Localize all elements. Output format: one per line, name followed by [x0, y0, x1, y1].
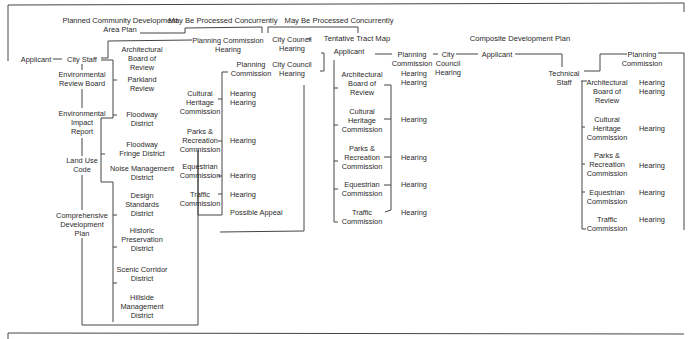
environmental-impact-report-node: Environmental Impact Report: [58, 109, 105, 137]
applicant-node: Applicant: [21, 55, 51, 64]
composite-applicant-node: Applicant: [482, 50, 512, 59]
tentative-tract-map-label: Tentative Tract Map: [324, 34, 390, 43]
environmental-review-board-node: Environmental Review Board: [58, 70, 105, 88]
composite-equestrian-hearing: Hearing: [639, 188, 665, 197]
composite-cultural-node: Cultural Heritage Commission: [587, 115, 628, 143]
composite-planning-commission-node: Planning Commission: [622, 50, 663, 68]
cultural-heritage-node: Cultural Heritage Commission: [180, 89, 221, 117]
development-process-flowchart: Planned Community Development Area Plan …: [0, 0, 689, 339]
composite-traffic-node: Traffic Commission: [587, 215, 628, 233]
parks-recreation-hearing: Hearing: [230, 136, 256, 145]
tract-parks-hearing: Hearing: [401, 153, 427, 162]
composite-parks-hearing: Hearing: [639, 161, 665, 170]
tract-planning-commission-node: Planning Commission: [392, 50, 433, 68]
architectural-board-node: Architectural Board of Review: [121, 45, 162, 73]
city-staff-node: City Staff: [67, 55, 97, 64]
composite-plan-label: Composite Development Plan: [470, 34, 570, 43]
tract-cultural-hearing: Hearing: [401, 115, 427, 124]
city-council-hearing-1: City Council Hearing: [272, 35, 311, 53]
technical-staff-node: Technical Staff: [549, 69, 580, 87]
tract-parks-node: Parks & Recreation Commission: [342, 144, 383, 172]
pcd-area-plan-label: Planned Community Development Area Plan: [62, 16, 177, 34]
composite-parks-node: Parks & Recreation Commission: [587, 151, 628, 179]
cultural-heritage-hearing: Hearing Hearing: [230, 89, 256, 107]
scenic-corridor-node: Scenic Corridor District: [117, 265, 168, 283]
parks-recreation-node: Parks & Recreation Commission: [180, 127, 221, 155]
tract-equestrian-node: Equestrian Commission: [342, 180, 383, 198]
design-standards-node: Design Standards District: [125, 191, 159, 219]
noise-management-node: Noise Management District: [110, 164, 174, 182]
tract-city-council-node: City Council Hearing: [435, 50, 461, 78]
historic-preservation-node: Historic Preservation District: [121, 226, 163, 254]
traffic-hearing: Hearing: [230, 190, 256, 199]
tract-equestrian-hearing: Hearing: [401, 180, 427, 189]
equestrian-node: Equestrian Commission: [180, 162, 221, 180]
composite-traffic-hearing: Hearing: [639, 215, 665, 224]
composite-architectural-node: Architectural Board of Review: [586, 78, 627, 106]
concurrent-label-2: May Be Processed Concurrently: [285, 16, 394, 25]
composite-equestrian-node: Equestrian Commission: [587, 188, 628, 206]
comprehensive-development-plan-node: Comprehensive Development Plan: [56, 211, 108, 239]
composite-architectural-hearing: Hearing Hearing: [639, 78, 665, 96]
tract-applicant-node: Applicant: [334, 47, 364, 56]
tract-traffic-node: Traffic Commission: [342, 208, 383, 226]
tract-pc-hearings: Hearing Hearing: [401, 69, 427, 87]
traffic-node: Traffic Commission: [180, 190, 221, 208]
tract-architectural-node: Architectural Board of Review: [341, 70, 382, 98]
pc-hearing-node: Planning Commission Hearing: [192, 36, 263, 54]
tract-traffic-hearing: Hearing: [401, 208, 427, 217]
concurrent-label-1: May Be Processed Concurrently: [169, 16, 278, 25]
floodway-fringe-node: Floodway Fringe District: [119, 140, 165, 158]
possible-appeal-label: Possible Appeal: [230, 208, 283, 217]
city-council-hearing-2: City Council Hearing: [272, 60, 311, 78]
parkland-review-node: Parkland Review: [127, 75, 156, 93]
planning-commission-node: Planning Commission: [231, 60, 272, 78]
equestrian-hearing: Hearing: [230, 171, 256, 180]
hillside-management-node: Hillside Management District: [120, 293, 163, 321]
land-use-code-node: Land Use Code: [66, 156, 98, 174]
tract-cultural-node: Cultural Heritage Commission: [342, 107, 383, 135]
composite-cultural-hearing: Hearing: [639, 124, 665, 133]
floodway-district-node: Floodway District: [126, 110, 158, 128]
